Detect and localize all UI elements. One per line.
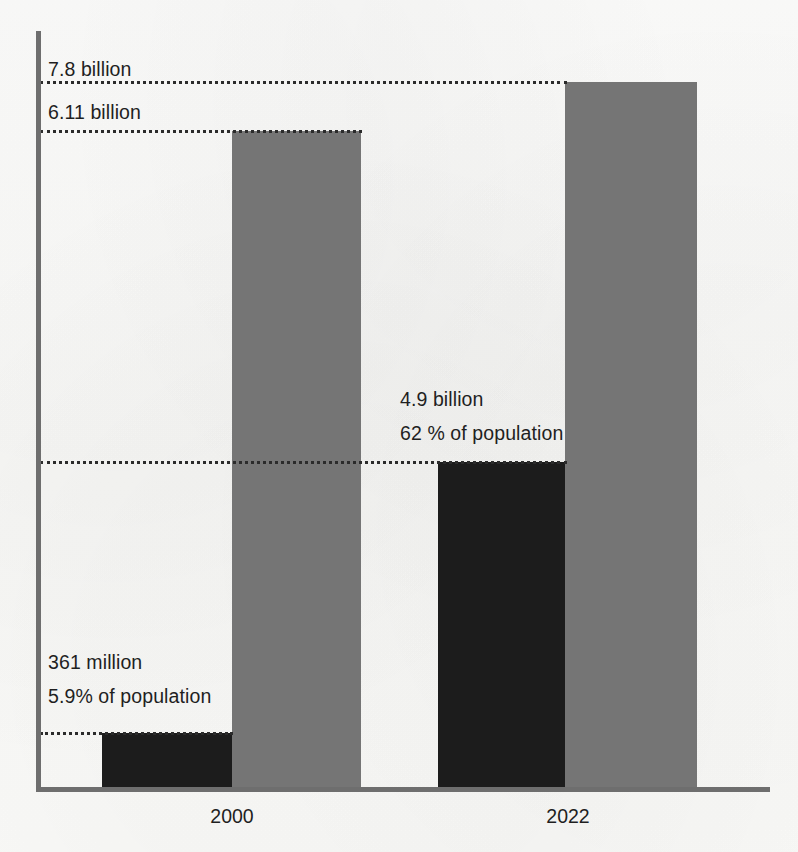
label-internet-users-2022-share: 62 % of population xyxy=(400,416,563,450)
label-internet-users-2000-share: 5.9% of population xyxy=(48,679,211,713)
gridline-7-8-billion xyxy=(40,81,567,84)
population-internet-users-bar-chart: 7.8 billion 6.11 billion 4.9 billion 62 … xyxy=(0,0,798,852)
bar-internet-users-2000 xyxy=(102,733,232,790)
gridline-361-million xyxy=(40,732,233,735)
gridline-6-11-billion xyxy=(40,130,362,133)
gridline-4-9-billion xyxy=(40,461,567,464)
label-population-2000: 6.11 billion xyxy=(48,101,141,124)
label-internet-users-2000-value: 361 million xyxy=(48,645,211,679)
y-axis-line xyxy=(36,31,41,792)
label-block-internet-users-2000: 361 million 5.9% of population xyxy=(48,645,211,713)
label-internet-users-2022-value: 4.9 billion xyxy=(400,382,563,416)
bar-internet-users-2022 xyxy=(438,462,565,790)
plot-area: 7.8 billion 6.11 billion 4.9 billion 62 … xyxy=(0,0,798,852)
label-population-2022: 7.8 billion xyxy=(48,58,132,81)
x-tick-label-2022: 2022 xyxy=(488,805,648,828)
bar-world-population-2022 xyxy=(565,82,697,790)
label-block-internet-users-2022: 4.9 billion 62 % of population xyxy=(400,382,563,450)
x-tick-label-2000: 2000 xyxy=(152,805,312,828)
x-axis-line xyxy=(36,787,770,792)
